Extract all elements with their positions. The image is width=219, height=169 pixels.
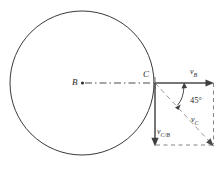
figure-canvas: B C vB vC vC/B 45° — [0, 0, 219, 169]
velocity-diagram-svg — [0, 0, 219, 169]
angle-arc — [178, 86, 185, 105]
label-vcb-subscript: C/B — [161, 132, 170, 138]
vector-vb-arrowhead — [206, 80, 215, 87]
label-vc-subscript: C — [195, 120, 199, 126]
label-vector-vb: vB — [190, 68, 197, 78]
label-point-b: B — [72, 78, 78, 87]
label-angle-value: 45° — [190, 96, 202, 105]
label-point-c: C — [143, 70, 149, 79]
label-vector-vcb: vC/B — [157, 128, 170, 138]
center-point-dot — [81, 81, 84, 84]
label-vb-subscript: B — [194, 72, 198, 78]
label-vector-vc: vC — [191, 116, 199, 126]
